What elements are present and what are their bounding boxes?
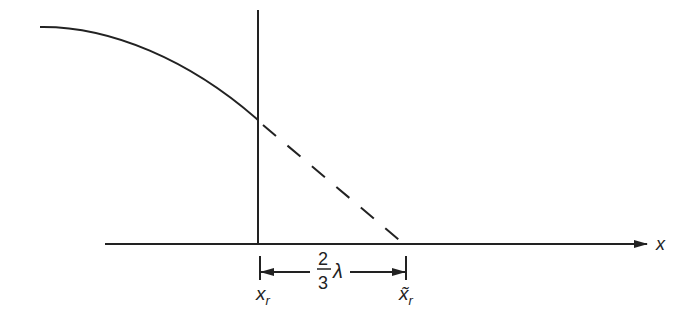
x-r-label: xr bbox=[255, 283, 271, 308]
x-tilde-r-subscript: r bbox=[409, 293, 414, 308]
fraction-denominator: 3 bbox=[318, 273, 328, 293]
x-tilde-r-label: x̃r bbox=[398, 283, 414, 308]
fraction-numerator: 2 bbox=[318, 249, 328, 269]
flux-curve bbox=[40, 27, 258, 120]
x-axis-label: x bbox=[655, 234, 666, 254]
extrapolation-dashed-line bbox=[263, 125, 404, 244]
x-r-subscript: r bbox=[266, 293, 271, 308]
lambda-symbol: λ bbox=[332, 260, 343, 282]
extrapolation-distance-diagram: x 2 3 λ xr x̃r bbox=[0, 0, 695, 319]
